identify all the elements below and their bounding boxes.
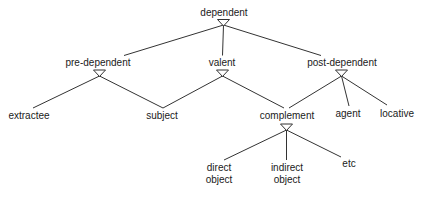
dependency-tree-diagram: dependent pre-dependent valent post-depe…: [0, 0, 426, 197]
edge-post-dependent-locative: [342, 76, 388, 105]
edge-complement-direct-object: [224, 130, 287, 160]
node-label-extractee: extractee: [8, 110, 50, 121]
triangle-marker-pre-dependent: [94, 70, 106, 77]
node-label-complement: complement: [260, 110, 315, 121]
triangle-marker-complement: [281, 124, 293, 131]
node-label-direct-object-line2: object: [206, 174, 233, 185]
node-label-agent: agent: [335, 108, 360, 119]
node-label-locative: locative: [380, 108, 414, 119]
edge-valent-complement: [223, 76, 285, 108]
node-label-pre-dependent: pre-dependent: [65, 57, 130, 68]
edge-group-complement: [224, 130, 341, 160]
edge-group-pre-dependent: [33, 76, 163, 108]
edge-pre-dependent-extractee: [33, 76, 100, 108]
edge-dependent-post-dependent: [224, 25, 322, 56]
edge-group-root: [124, 25, 321, 56]
edge-pre-dependent-subject: [100, 76, 164, 108]
tree-graphic: dependent pre-dependent valent post-depe…: [0, 0, 426, 197]
edge-group-post-dependent: [289, 76, 387, 108]
node-label-valent: valent: [209, 57, 236, 68]
edge-dependent-pre-dependent: [124, 25, 224, 56]
triangle-marker-post-dependent: [336, 70, 348, 77]
triangle-marker-valent: [217, 70, 229, 77]
triangle-marker-dependent: [218, 20, 230, 27]
edge-post-dependent-complement: [289, 76, 342, 108]
node-label-subject: subject: [146, 110, 178, 121]
node-label-dependent: dependent: [200, 7, 247, 18]
node-label-post-dependent: post-dependent: [307, 57, 377, 68]
node-label-direct-object-line1: direct: [207, 162, 232, 173]
edge-group-valent: [163, 76, 284, 108]
edge-complement-etc: [287, 130, 342, 157]
node-label-indirect-object-line1: indirect: [271, 162, 303, 173]
edge-dependent-valent: [223, 25, 224, 56]
node-label-etc: etc: [342, 158, 355, 169]
edge-valent-subject: [163, 76, 223, 108]
node-label-indirect-object-line2: object: [274, 174, 301, 185]
